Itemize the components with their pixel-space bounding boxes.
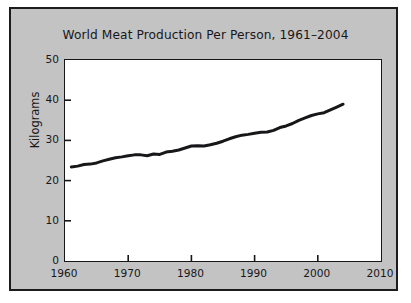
x-tick-label: 1970	[107, 268, 147, 279]
y-tick-label: 0	[37, 255, 59, 266]
x-tick-label: 2000	[297, 268, 337, 279]
y-tick-label: 10	[37, 215, 59, 226]
y-tick-label: 30	[37, 134, 59, 145]
y-tick-label: 20	[37, 175, 59, 186]
chart-title: World Meat Production Per Person, 1961–2…	[11, 28, 400, 42]
x-axis-tick-labels: 196019701980199020002010	[64, 265, 382, 281]
series-line-world-meat-production	[71, 104, 343, 167]
figure-container: World Meat Production Per Person, 1961–2…	[0, 0, 411, 303]
x-tick-label: 1980	[170, 268, 210, 279]
x-tick-label: 1990	[234, 268, 274, 279]
y-axis-tick-labels: 01020304050	[33, 59, 59, 260]
chart-panel: World Meat Production Per Person, 1961–2…	[9, 7, 398, 291]
y-tick-label: 40	[37, 94, 59, 105]
data-line-svg	[65, 60, 381, 261]
x-tick-label: 2010	[360, 268, 400, 279]
plot-area	[64, 59, 382, 262]
x-tick-label: 1960	[44, 268, 84, 279]
y-tick-label: 50	[37, 54, 59, 65]
